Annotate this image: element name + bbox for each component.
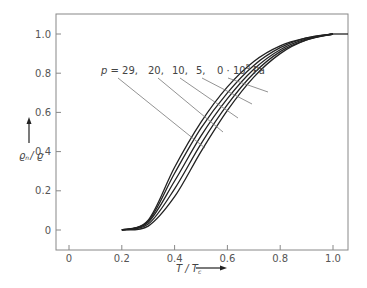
y-tick-label: 0 — [45, 225, 51, 236]
y-tick-label: 0.8 — [35, 68, 51, 79]
x-tick-label: 0.6 — [219, 253, 235, 264]
leader-lines — [118, 78, 268, 148]
x-tick-label: 1.0 — [325, 253, 341, 264]
label-p29: p = 29, — [100, 65, 138, 76]
x-tick-label: 0 — [66, 253, 72, 264]
label-p10: 10, — [172, 65, 188, 76]
y-tick-label: 1.0 — [35, 29, 51, 40]
y-tick-label: 0.6 — [35, 107, 51, 118]
chart: 00.20.40.60.81.0 00.20.40.60.81.0 p = 29… — [0, 0, 367, 288]
plot-frame — [56, 14, 348, 250]
x-axis-label: T / Tc — [176, 263, 227, 275]
y-axis: 00.20.40.60.81.0 — [35, 29, 61, 236]
curve-4 — [122, 34, 333, 230]
up-arrow-icon — [27, 117, 32, 124]
x-tick-label: 0.2 — [114, 253, 130, 264]
curve-2 — [122, 34, 333, 230]
x-tick-label: 0.8 — [272, 253, 288, 264]
x-axis: 00.20.40.60.81.0 — [66, 245, 341, 264]
curve-1 — [122, 34, 333, 230]
y-axis-label: ϱn/ ϱ — [19, 117, 44, 161]
label-p20: 20, — [148, 65, 164, 76]
x-label-text: T / Tc — [176, 263, 202, 275]
y-label-text: ϱn/ ϱ — [19, 150, 44, 161]
label-p5: 5, — [196, 65, 206, 76]
curve-0 — [122, 34, 333, 230]
label-p0: 0 · 105Pa — [217, 63, 265, 76]
curve-3 — [122, 34, 333, 230]
leader-line — [118, 78, 205, 148]
curves — [122, 34, 348, 230]
right-arrow-icon — [220, 266, 227, 271]
y-tick-label: 0.2 — [35, 185, 51, 196]
